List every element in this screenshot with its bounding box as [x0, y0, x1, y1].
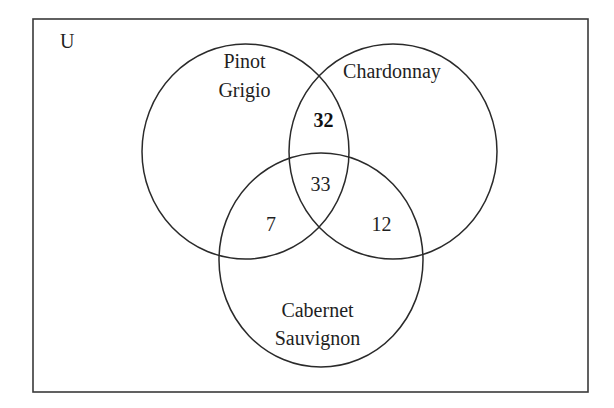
set-label-cabernet-line2: Sauvignon — [275, 327, 361, 350]
set-label-pinot-line1: Pinot — [223, 50, 266, 72]
region-value-all-three: 33 — [311, 173, 331, 195]
set-label-pinot-line2: Grigio — [218, 79, 270, 102]
venn-diagram: U Pinot Grigio Chardonnay Cabernet Sauvi… — [0, 0, 614, 408]
region-value-pinot-chardonnay: 32 — [314, 109, 334, 131]
universe-label: U — [60, 30, 75, 52]
region-value-pinot-cabernet: 7 — [266, 213, 276, 235]
region-value-chardonnay-cabernet: 12 — [372, 213, 392, 235]
set-label-chardonnay: Chardonnay — [343, 60, 441, 83]
set-label-cabernet-line1: Cabernet — [281, 299, 354, 321]
